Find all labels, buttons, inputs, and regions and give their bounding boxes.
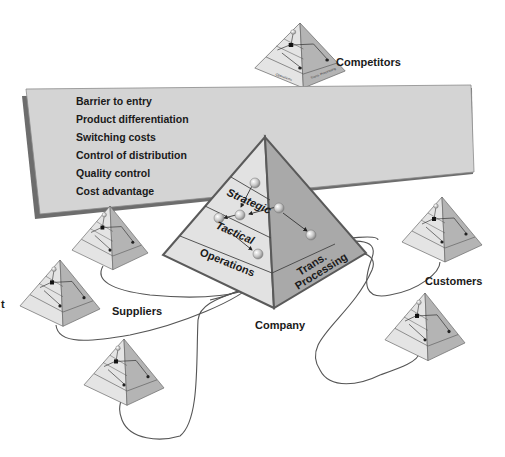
customer-pyramid-1 <box>402 197 482 262</box>
customers-label: Customers <box>425 275 482 287</box>
banner-item: Control of distribution <box>76 149 187 161</box>
cropped-text-fragment: t <box>1 298 5 310</box>
company-label: Company <box>255 319 306 331</box>
customer-pyramid-2 <box>385 293 465 361</box>
banner-item: Switching costs <box>76 131 156 143</box>
banner-item: Quality control <box>76 167 150 179</box>
competitive-advantage-diagram: Operations Trans. Processing Competitors… <box>0 0 505 457</box>
banner-item: Barrier to entry <box>76 95 152 107</box>
competitors-label: Competitors <box>336 56 401 68</box>
supplier-pyramid-1 <box>72 206 148 270</box>
supplier-pyramid-2 <box>20 260 100 326</box>
banner-item: Product differentiation <box>76 113 189 125</box>
suppliers-label: Suppliers <box>112 305 162 317</box>
supplier-pyramid-3 <box>84 339 164 405</box>
banner-item: Cost advantage <box>76 185 154 197</box>
competitors-pyramid: Operations Trans. Processing <box>255 23 345 88</box>
